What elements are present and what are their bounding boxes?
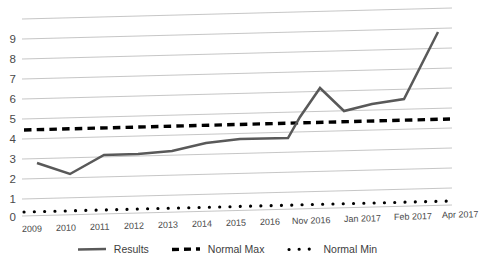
series-normal-max [24,119,450,130]
dashed-line-swatch [171,244,201,254]
solid-line-swatch [77,244,107,254]
y-axis-tick-label: 6 [2,93,16,105]
dotted-line-swatch [286,244,316,254]
y-axis-tick-label: 1 [2,193,16,205]
gridline [22,128,452,139]
legend-label: Normal Max [208,243,265,255]
y-axis-tick-label: 4 [2,133,16,145]
gridline [22,168,452,179]
normal-max-line [24,119,450,130]
gridline [22,28,452,39]
x-axis-tick-label: 2013 [158,220,178,230]
legend-item-normal-max[interactable]: Normal Max [171,243,265,255]
x-axis-tick-label: 2011 [90,222,110,232]
y-axis-tick-label: 2 [2,173,16,185]
y-axis-tick-label: 8 [2,53,16,65]
gridline [22,68,452,79]
y-axis-tick-label: 5 [2,113,16,125]
x-axis-tick-label: Nov 2016 [292,215,331,226]
legend-label: Normal Min [323,243,377,255]
x-axis-tick-label: 2016 [260,217,280,227]
gridline [22,48,452,59]
x-axis-tick-label: 2015 [226,218,246,228]
x-axis-tick-label: 2009 [22,224,42,234]
x-axis-tick-label: Jan 2017 [344,213,381,224]
x-axis-tick-label: 2010 [56,223,76,233]
gridline [22,108,452,119]
gridline [22,188,452,199]
legend-label: Results [114,243,149,255]
gridline [22,88,452,99]
legend-item-normal-min[interactable]: Normal Min [286,243,377,255]
y-axis-tick-label: 7 [2,73,16,85]
gridline [22,148,452,159]
legend-item-results[interactable]: Results [77,243,149,255]
gridlines [22,8,452,216]
chart-legend: Results Normal Max Normal Min [0,238,454,260]
y-axis-tick-label: 9 [2,33,16,45]
y-axis-tick-label: 3 [2,153,16,165]
x-axis-tick-label: Apr 2017 [442,209,479,220]
x-axis-tick-label: 2012 [124,221,144,231]
gridline [22,8,452,19]
x-axis-tick-label: 2014 [192,219,212,229]
x-axis-tick-label: Feb 2017 [394,211,432,222]
y-axis-tick-label: 0 [2,211,16,223]
